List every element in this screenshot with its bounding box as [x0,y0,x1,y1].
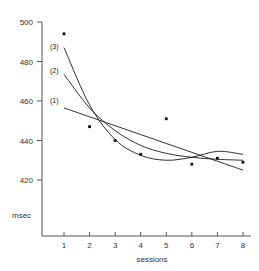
data-point [216,157,219,160]
fitted-curve-1 [64,108,243,170]
y-tick-label: 420 [20,176,34,185]
x-tick-label: 3 [113,241,118,250]
x-tick-label: 7 [215,241,220,250]
x-tick-label: 8 [241,241,246,250]
data-point [165,117,168,120]
data-point [88,125,91,128]
data-point [63,32,66,35]
y-tick-label: 500 [20,18,34,27]
data-point [190,163,193,166]
curve-label-1: (1) [50,97,59,105]
y-axis-label: msec [12,211,31,220]
curve-labels: (3)(2)(1) [50,43,59,105]
data-point [242,161,245,164]
y-tick-label: 480 [20,58,34,67]
y-tick-label: 460 [20,97,34,106]
data-point [139,153,142,156]
x-tick-label: 4 [138,241,143,250]
x-tick-label: 6 [190,241,195,250]
data-points [63,32,245,165]
x-axis-ticks: 12345678 [62,232,246,250]
curve-label-2: (2) [50,67,59,75]
fitted-curves [64,48,243,170]
x-axis-label: sessions [136,255,167,264]
chart-svg: 420440460480500 12345678 (3)(2)(1) msec … [0,0,259,271]
x-tick-label: 2 [87,241,92,250]
chart-container: 420440460480500 12345678 (3)(2)(1) msec … [0,0,259,271]
x-tick-label: 5 [164,241,169,250]
x-tick-label: 1 [62,241,67,250]
curve-label-3: (3) [50,43,59,51]
y-axis-ticks: 420440460480500 [20,18,42,185]
axes [42,22,251,236]
y-tick-label: 440 [20,137,34,146]
data-point [114,139,117,142]
fitted-curve-3 [64,48,243,161]
